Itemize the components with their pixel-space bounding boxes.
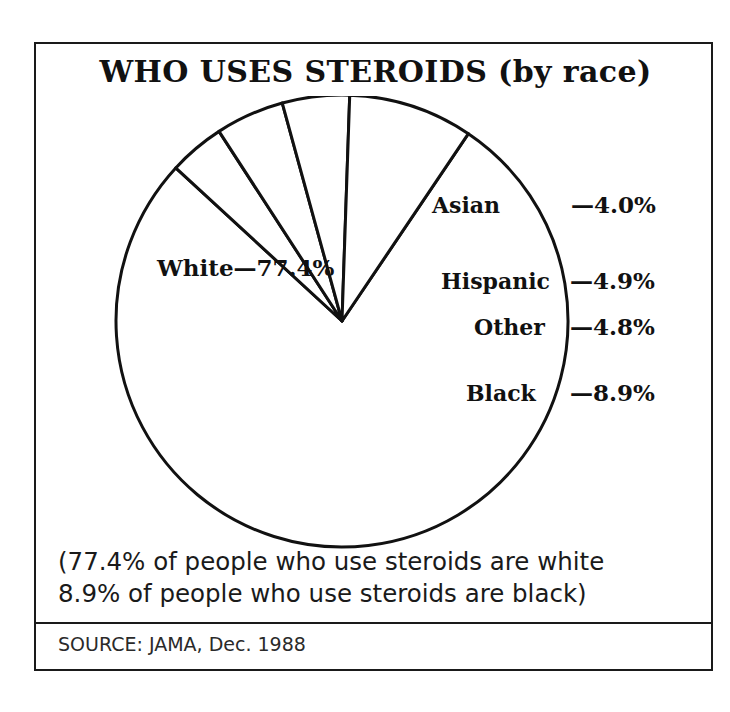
slice-percent-black: —8.9% [570,381,655,404]
chart-frame: WHO USES STEROIDS (by race) White—77.4% … [34,42,713,671]
slice-label-black: Black [466,382,536,404]
caption-line-2: 8.9% of people who use steroids are blac… [58,578,698,610]
slice-label-white: White—77.4% [157,256,334,279]
slice-label-other: Other [474,316,545,338]
slice-percent-other: —4.8% [570,315,655,338]
source-divider [36,622,713,624]
source-note: SOURCE: JAMA, Dec. 1988 [58,633,306,655]
slice-percent-hispanic: —4.9% [570,269,655,292]
slice-label-hispanic: Hispanic [441,270,550,292]
caption-line-1: (77.4% of people who use steroids are wh… [58,546,698,578]
slice-percent-asian: —4.0% [571,193,656,216]
slice-label-asian: Asian [432,194,500,216]
chart-caption: (77.4% of people who use steroids are wh… [58,546,698,611]
chart-title: WHO USES STEROIDS (by race) [36,54,715,89]
